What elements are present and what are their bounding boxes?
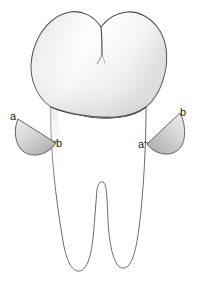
roots-outline (51, 107, 146, 271)
tooth-diagram-svg: a b a b (0, 0, 201, 281)
left-wedge[interactable] (15, 119, 56, 155)
figure-root: a b a b (0, 0, 201, 281)
right-wedge[interactable] (147, 113, 185, 154)
left-wedge-shape[interactable] (15, 119, 56, 155)
label-left-b: b (56, 137, 62, 149)
label-right-b: b (180, 106, 186, 118)
crown-vertical-shading (31, 12, 166, 118)
label-right-a: a (138, 138, 145, 150)
right-wedge-shape[interactable] (147, 113, 185, 154)
roots-group (51, 107, 146, 271)
crown-group (31, 12, 166, 118)
label-left-a: a (10, 110, 17, 122)
